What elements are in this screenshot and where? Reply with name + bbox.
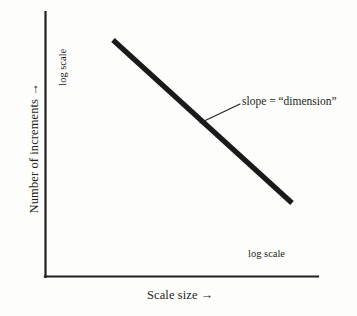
y-axis-scale-note: log scale — [58, 34, 69, 100]
figure-canvas: Number of increments → log scale Scale s… — [0, 0, 357, 316]
slope-annotation-label: slope = “dimension” — [242, 96, 337, 108]
x-axis-label: Scale size → — [147, 289, 213, 302]
x-axis-scale-note: log scale — [248, 249, 285, 260]
annotation-leader-line — [200, 104, 240, 123]
y-axis-label: Number of increments → — [28, 78, 41, 218]
plot-graphic — [0, 0, 357, 316]
